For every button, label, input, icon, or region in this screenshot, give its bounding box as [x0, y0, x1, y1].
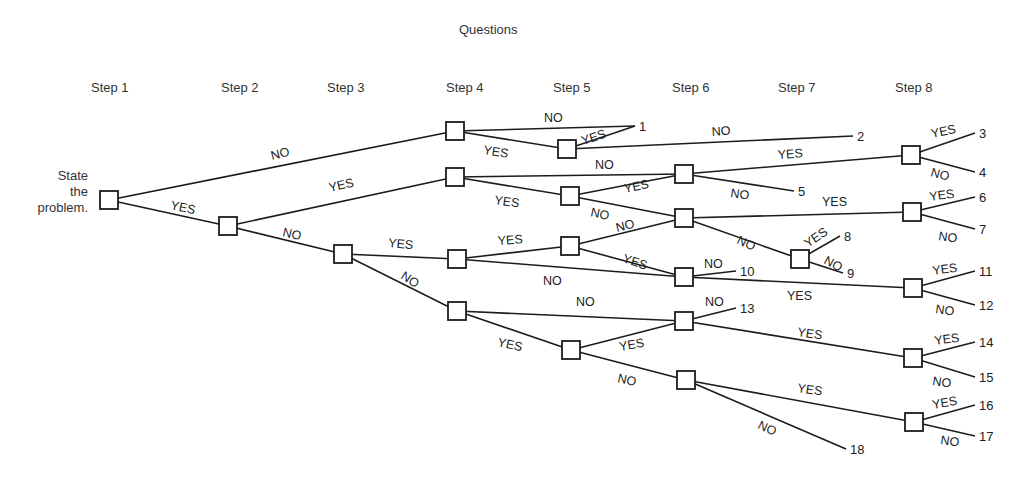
outcome-number: 9	[847, 266, 854, 281]
decision-node-box-icon	[446, 122, 464, 140]
branch-label: NO	[398, 269, 422, 291]
branch-label: NO	[822, 253, 845, 274]
branch-label: NO	[269, 145, 291, 163]
decision-node-box-icon	[446, 168, 464, 186]
branch-label: YES	[497, 232, 523, 248]
decision-node-box-icon	[558, 140, 576, 158]
outcome-number: 5	[798, 184, 805, 199]
branch-yes	[457, 246, 570, 259]
decision-node-box-icon	[675, 209, 693, 227]
outcome-number: 8	[844, 229, 851, 244]
decision-node-box-icon	[791, 250, 809, 268]
outcome-number: 1	[639, 119, 646, 134]
decision-node-box-icon	[562, 341, 580, 359]
branch-label: YES	[496, 335, 523, 354]
branch-label: NO	[940, 433, 961, 450]
branch-no	[109, 131, 455, 200]
edge-labels-layer: NOYESYESNONOYESYESNONOYESYESNOYESNOYESNO…	[169, 111, 960, 450]
decision-node-box-icon	[448, 302, 466, 320]
decision-node-box-icon	[561, 237, 579, 255]
decision-node-box-icon	[905, 413, 923, 431]
branch-label: YES	[930, 122, 957, 141]
decision-node-box-icon	[904, 349, 922, 367]
branch-label: NO	[543, 274, 562, 288]
branch-no	[570, 196, 684, 218]
branch-yes	[455, 131, 567, 149]
decision-node-box-icon	[448, 250, 466, 268]
decision-node-box-icon	[675, 165, 693, 183]
branch-label: YES	[802, 225, 831, 251]
outcome-number: 17	[979, 429, 993, 444]
decision-node-box-icon	[561, 187, 579, 205]
outcome-number: 10	[740, 264, 754, 279]
branch-label: YES	[623, 177, 650, 196]
outcome-number: 4	[979, 165, 986, 180]
branch-label: YES	[931, 394, 958, 412]
branch-label: YES	[580, 127, 608, 148]
branch-label: NO	[735, 233, 758, 254]
branch-label: NO	[935, 302, 956, 319]
branch-yes	[109, 200, 228, 226]
branch-label: YES	[787, 289, 812, 303]
branch-label: NO	[576, 295, 595, 309]
branch-label: YES	[928, 187, 955, 204]
branch-label: YES	[931, 261, 958, 278]
branch-label: NO	[711, 124, 731, 139]
branch-label: NO	[756, 418, 779, 439]
branch-no	[455, 174, 684, 177]
branch-label: YES	[618, 336, 645, 354]
branch-label: YES	[388, 236, 414, 252]
outcome-number: 18	[850, 442, 864, 457]
branch-label: YES	[797, 381, 824, 398]
branch-label: NO	[589, 205, 611, 223]
branch-label: NO	[938, 229, 959, 246]
branch-label: NO	[544, 111, 563, 125]
decision-node-box-icon	[675, 268, 693, 286]
decision-node-box-icon	[100, 191, 118, 209]
decision-node-box-icon	[675, 312, 693, 330]
branch-no	[455, 126, 635, 131]
outcome-number: 3	[979, 126, 986, 141]
outcome-number: 2	[857, 129, 864, 144]
branch-label: YES	[777, 146, 803, 162]
branch-label: NO	[932, 374, 953, 391]
decision-node-box-icon	[904, 279, 922, 297]
outcome-number: 7	[979, 222, 986, 237]
branch-no	[567, 136, 853, 149]
branch-label: YES	[494, 193, 521, 210]
branch-yes	[343, 254, 457, 259]
outcome-number: 16	[979, 398, 993, 413]
outcome-number: 15	[979, 370, 993, 385]
outcome-number: 12	[979, 298, 993, 313]
branch-label: NO	[730, 186, 751, 203]
branch-label: NO	[616, 371, 638, 389]
branch-no	[457, 311, 684, 321]
branch-label: NO	[595, 158, 614, 172]
branch-label: NO	[614, 217, 636, 235]
decision-node-box-icon	[219, 217, 237, 235]
branch-yes	[455, 177, 570, 196]
branch-label: NO	[705, 295, 724, 309]
tree-canvas: NOYESYESNONOYESYESNONOYESYESNOYESNOYESNO…	[0, 0, 1016, 481]
edges-layer	[109, 126, 975, 449]
outcome-number: 13	[740, 301, 754, 316]
outcome-number: 6	[979, 190, 986, 205]
decision-node-box-icon	[677, 371, 695, 389]
decision-node-box-icon	[903, 203, 921, 221]
outcome-number: 11	[979, 264, 993, 279]
branch-yes	[684, 212, 912, 218]
branch-label: YES	[822, 195, 847, 209]
branch-no	[343, 254, 457, 311]
branch-label: YES	[621, 252, 649, 273]
branch-label: YES	[328, 176, 356, 195]
branch-label: YES	[483, 143, 510, 161]
decision-node-box-icon	[902, 146, 920, 164]
decision-node-box-icon	[334, 245, 352, 263]
branch-label: YES	[933, 331, 960, 348]
branch-yes	[684, 277, 913, 288]
branch-label: NO	[929, 165, 951, 183]
outcome-number: 14	[979, 335, 993, 350]
branch-label: NO	[704, 257, 723, 271]
